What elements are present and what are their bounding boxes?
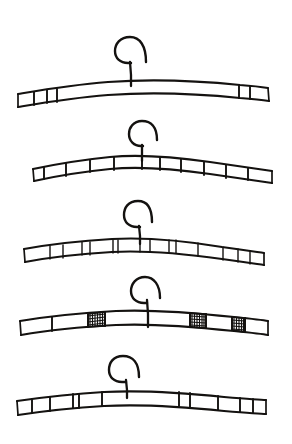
hanger-4-hook-icon xyxy=(131,277,160,327)
filled-segment-1 xyxy=(88,312,105,327)
hanger-1-bar xyxy=(18,81,269,107)
hanger-1-hook-icon xyxy=(115,37,146,86)
sketch-canvas: Five hand-drawn clothes hangers ink pen … xyxy=(0,0,292,444)
hanger-3 xyxy=(24,201,264,265)
hanger-4 xyxy=(20,277,268,335)
filled-segment-2 xyxy=(190,313,206,328)
hanger-5-bar xyxy=(17,391,266,415)
hanger-5 xyxy=(17,356,266,415)
hanger-2-bar xyxy=(33,156,272,183)
hanger-3-bar xyxy=(24,238,264,265)
hanger-sketch-illustration xyxy=(0,0,292,444)
hanger-2 xyxy=(33,121,272,183)
hanger-4-bar xyxy=(20,310,268,335)
filled-segment-3 xyxy=(232,317,245,332)
hanger-3-segment-ticks xyxy=(50,239,250,264)
hanger-1 xyxy=(18,37,269,107)
